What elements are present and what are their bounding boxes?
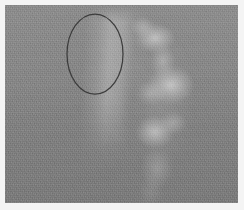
medical-scan-canvas[interactable] — [5, 5, 238, 203]
bright-vertical-streak — [5, 5, 238, 203]
image-viewport — [0, 0, 244, 210]
